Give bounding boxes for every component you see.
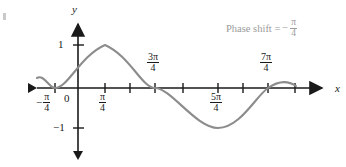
phase-shift-annotation-denominator: 4: [290, 29, 297, 39]
y-axis-label: y: [72, 4, 77, 15]
x-tick-3pi-4-denominator: 4: [147, 63, 159, 73]
origin-label: 0: [64, 93, 70, 104]
x-tick-5pi-4-fraction: 5π 4: [210, 92, 222, 113]
x-tick-7pi-4-denominator: 4: [260, 63, 272, 73]
x-axis-label: x: [335, 83, 340, 94]
x-tick-3pi-4-fraction: 3π 4: [147, 52, 159, 73]
sine-curve: [37, 45, 296, 128]
x-tick-label-3pi-4: 3π 4: [147, 52, 159, 73]
x-tick-label-pi-4: π 4: [99, 92, 106, 113]
x-tick-neg-pi-4-fraction: π 4: [43, 92, 50, 113]
x-tick-7pi-4-fraction: 7π 4: [260, 52, 272, 73]
x-tick-5pi-4-denominator: 4: [210, 103, 222, 113]
sine-graph-figure: x y 0 1 −1 − π 4 π 4 3π 4 5π 4: [0, 0, 346, 167]
x-tick-pi-4-fraction: π 4: [99, 92, 106, 113]
phase-shift-annotation-fraction: π 4: [290, 18, 297, 38]
y-tick-label-neg1: −1: [53, 122, 65, 133]
x-tick-label-neg-pi-4: − π 4: [36, 92, 50, 113]
x-tick-neg-pi-4-sign: −: [36, 97, 42, 108]
phase-shift-annotation: Phase shift = − π 4: [226, 18, 297, 38]
x-tick-label-5pi-4: 5π 4: [210, 92, 222, 113]
x-tick-neg-pi-4-denominator: 4: [43, 103, 50, 113]
phase-shift-annotation-text: Phase shift =: [226, 23, 280, 34]
x-tick-label-7pi-4: 7π 4: [260, 52, 272, 73]
y-axis-bottom-arrowhead: [73, 151, 83, 160]
y-tick-label-1: 1: [58, 39, 64, 50]
x-tick-pi-4-denominator: 4: [99, 103, 106, 113]
phase-shift-annotation-sign: −: [282, 23, 288, 34]
